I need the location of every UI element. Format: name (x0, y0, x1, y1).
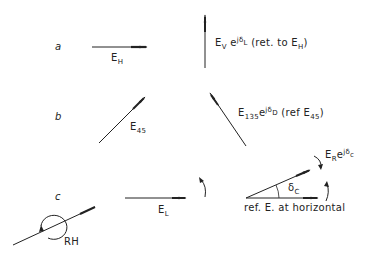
e45-sub: 45 (137, 127, 147, 135)
eh-base: E (111, 52, 118, 63)
e135-sub: 135 (245, 113, 259, 121)
e135-note-sub: 45 (310, 113, 320, 121)
rh-label: RH (64, 237, 79, 247)
er-label: ERejδc (325, 150, 354, 160)
e135-exp-sub: D (272, 109, 278, 117)
reference-caption: ref. E. at horizontal (244, 203, 345, 213)
ev-sub: V (222, 43, 227, 51)
row-c-er-vector (246, 170, 310, 198)
row-label-c: c (55, 192, 61, 202)
ev-note-close: ) (304, 37, 308, 48)
er-sub: R (332, 155, 337, 163)
ev-note-sub: H (298, 43, 304, 51)
row-c-rh-circular (13, 207, 95, 245)
row-b-e135-vector (210, 93, 246, 146)
row-c-ref-rotation-arrow-icon (324, 181, 329, 201)
e135-base: E (238, 107, 245, 118)
ev-base: E (215, 37, 222, 48)
ev-label: EV ejδL (ret. to EH) (215, 38, 308, 48)
row-c-er-rotation-arrow-icon (314, 156, 323, 170)
row-c-el-rotation-arrow-icon (199, 177, 206, 197)
e135-note-close: ) (320, 107, 324, 118)
delta-c-angle-arc (276, 185, 279, 198)
el-sub: L (165, 210, 169, 218)
el-base: E (158, 204, 165, 215)
delta-c-label: δC (288, 183, 300, 193)
e45-base: E (130, 121, 137, 132)
ev-exp-sub: L (243, 39, 247, 47)
e45-label: E45 (130, 122, 146, 132)
e135-note: (ref E (281, 107, 310, 118)
el-label: EL (158, 205, 169, 215)
row-label-a: a (55, 42, 61, 52)
eh-sub: H (118, 58, 124, 66)
er-exp-sub: c (350, 151, 354, 159)
delta-c-sub: C (294, 188, 299, 196)
ev-note: (ret. to E (251, 37, 298, 48)
e135-label: E135ejδD (ref E45) (238, 108, 324, 118)
er-base: E (325, 149, 332, 160)
ev-exp-base: e (230, 37, 236, 48)
eh-label: EH (111, 53, 123, 63)
row-b-e45-vector (99, 97, 145, 143)
row-label-b: b (55, 112, 62, 122)
polarization-diagram (0, 0, 370, 255)
